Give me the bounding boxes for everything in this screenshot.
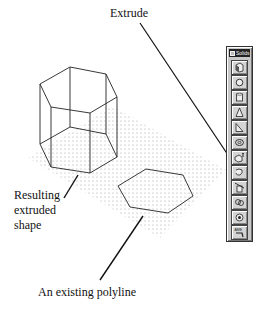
ame-convert-icon: AME	[233, 227, 246, 238]
wedge-button[interactable]	[231, 120, 248, 135]
extrude-button[interactable]	[231, 150, 248, 165]
revolve-button[interactable]	[231, 165, 248, 180]
sphere-button[interactable]	[231, 75, 248, 90]
cylinder-button[interactable]	[231, 90, 248, 105]
box-icon	[233, 62, 246, 73]
interference-icon	[233, 212, 246, 223]
polyline-label: An existing polyline	[38, 285, 136, 300]
extrude-label: Extrude	[110, 6, 148, 21]
svg-text:AME: AME	[235, 228, 243, 232]
wedge-icon	[233, 122, 246, 133]
cylinder-icon	[233, 92, 246, 103]
cone-button[interactable]	[231, 105, 248, 120]
interference-button[interactable]	[231, 210, 248, 225]
leader-polyline	[100, 216, 143, 280]
resulting-label-line2: extruded	[14, 203, 74, 218]
ame-convert-button[interactable]: AME	[231, 225, 248, 240]
revolve-icon	[233, 167, 246, 178]
toolbar-titlebar[interactable]: Solids	[229, 49, 250, 57]
toolbar-close-icon[interactable]	[230, 51, 235, 56]
toolbar-title: Solids	[236, 49, 250, 57]
cone-icon	[233, 107, 246, 118]
section-button[interactable]	[231, 195, 248, 210]
solids-toolbar: Solids AME	[226, 46, 253, 242]
box-button[interactable]	[231, 60, 248, 75]
extrude-icon	[233, 152, 246, 163]
sphere-icon	[233, 77, 246, 88]
resulting-label-line3: shape	[14, 218, 74, 233]
resulting-label-line1: Resulting	[14, 188, 74, 203]
slice-icon	[233, 182, 246, 193]
slice-button[interactable]	[231, 180, 248, 195]
section-icon	[233, 197, 246, 208]
torus-button[interactable]	[231, 135, 248, 150]
resulting-shape-label: Resulting extruded shape	[14, 188, 74, 233]
torus-icon	[233, 137, 246, 148]
